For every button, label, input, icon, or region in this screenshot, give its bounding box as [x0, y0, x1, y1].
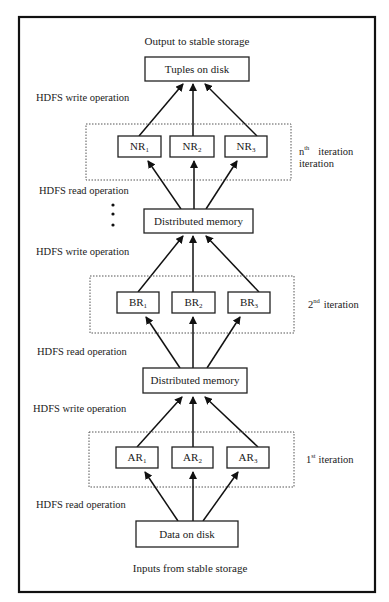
distributed-memory-node-lower: Distributed memory [143, 368, 247, 393]
node-nr3: NR3 [225, 136, 267, 157]
hdfs-write-label-top: HDFS write operation [36, 92, 130, 103]
svg-text:Data on disk: Data on disk [159, 528, 215, 540]
arrow-dm2-to-br1 [146, 317, 180, 368]
arrow-br1-to-dm [138, 236, 183, 292]
node-ar2: AR2 [172, 447, 213, 468]
iteration-group-1st: AR1 AR2 AR3 [89, 432, 294, 487]
hdfs-read-label-2nd: HDFS read operation [37, 346, 128, 357]
iteration-label-1st: 1stiteration [306, 452, 354, 465]
bottom-caption: Inputs from stable storage [133, 562, 248, 574]
svg-text:Distributed memory: Distributed memory [154, 215, 243, 227]
ellipsis-dots [111, 203, 114, 226]
iteration-label-2nd: 2nditeration [308, 297, 359, 310]
input-node-data-on-disk: Data on disk [136, 521, 238, 547]
svg-text:Distributed memory: Distributed memory [151, 374, 240, 386]
node-ar1: AR1 [116, 447, 158, 468]
top-caption: Output to stable storage [145, 35, 250, 47]
iteration-label-nth-line2: iteration [299, 158, 335, 169]
output-node-tuples-on-disk: Tuples on disk [145, 57, 249, 81]
arrow-nr1-to-tuples [139, 84, 183, 136]
node-nr2: NR2 [170, 136, 214, 157]
hdfs-read-label-nth: HDFS read operation [39, 185, 130, 196]
hdfs-read-label-1st: HDFS read operation [36, 499, 127, 510]
arrow-data-to-ar1 [145, 472, 178, 521]
output-node-label: Tuples on disk [165, 63, 230, 75]
arrow-br3-to-dm [206, 236, 259, 292]
hdfs-write-label-1st: HDFS write operation [33, 403, 127, 414]
node-ar3: AR3 [227, 447, 269, 468]
iteration-group-2nd: BR1 BR2 BR3 [90, 276, 294, 333]
iteration-label-nth: nthiteration [299, 144, 354, 157]
iteration-group-nth: NR1 NR2 NR3 [86, 124, 291, 180]
node-br3: BR3 [228, 292, 270, 313]
iterative-hdfs-diagram: Output to stable storage Tuples on disk … [0, 0, 389, 602]
arrow-dm-to-nr1 [148, 161, 181, 209]
node-br2: BR2 [172, 292, 215, 313]
node-nr1: NR1 [118, 136, 161, 157]
hdfs-write-label-2nd: HDFS write operation [36, 246, 130, 257]
arrow-dm2-to-br3 [207, 317, 240, 368]
arrow-ar3-to-dm [205, 397, 258, 447]
node-br1: BR1 [117, 292, 159, 313]
arrow-data-to-ar3 [203, 472, 238, 521]
arrow-dm-to-nr3 [206, 161, 237, 209]
arrow-nr3-to-tuples [205, 84, 257, 136]
arrow-ar1-to-dm [137, 397, 182, 447]
distributed-memory-node-upper: Distributed memory [144, 209, 253, 233]
